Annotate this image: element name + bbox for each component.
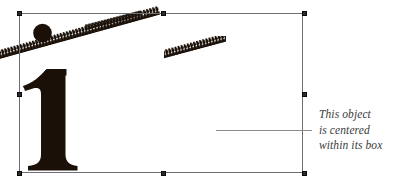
object-bounding-box[interactable]: [19, 13, 303, 173]
annotation-caption-line-3: within its box: [319, 138, 397, 154]
annotation-caption: This object is centered within its box: [319, 107, 397, 154]
annotation-leader-line: [216, 130, 312, 131]
resize-handle-bottom-left[interactable]: [17, 171, 22, 176]
resize-handle-middle-left[interactable]: [17, 92, 22, 97]
resize-handle-top-center[interactable]: [161, 11, 166, 16]
annotation-caption-line-1: This object: [319, 107, 397, 123]
resize-handle-top-right[interactable]: [302, 11, 307, 16]
annotation-caption-line-2: is centered: [319, 123, 397, 139]
resize-handle-top-left[interactable]: [17, 11, 22, 16]
resize-handle-bottom-right[interactable]: [302, 171, 307, 176]
canvas: This object is centered within its box: [0, 0, 398, 183]
resize-handle-bottom-center[interactable]: [161, 171, 166, 176]
resize-handle-middle-right[interactable]: [302, 92, 307, 97]
